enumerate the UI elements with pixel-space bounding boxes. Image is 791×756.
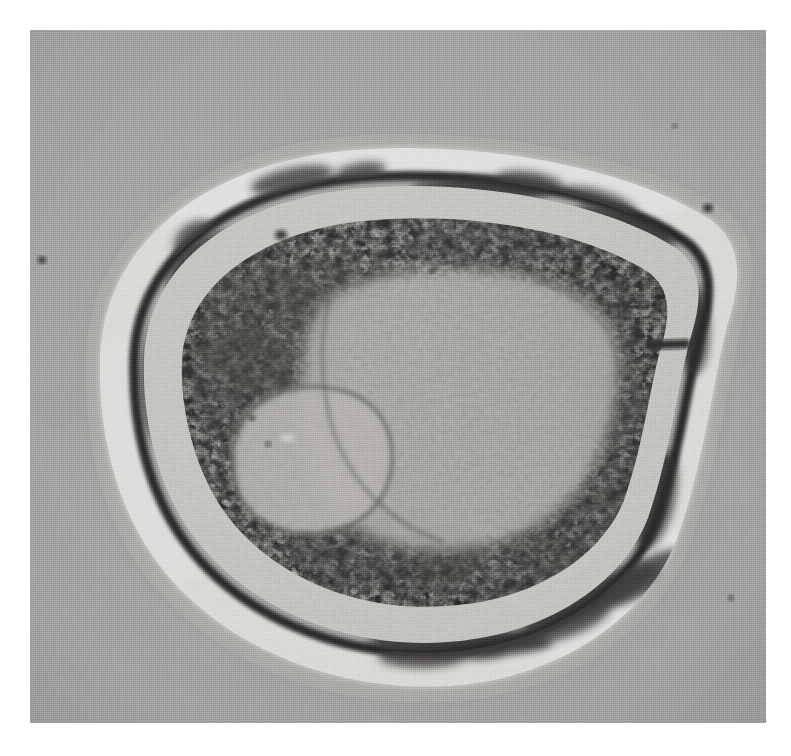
cell-cross-section-drawing bbox=[30, 30, 766, 723]
photographic-plate bbox=[30, 30, 766, 723]
micrograph-figure: Black-and-white transmission electron mi… bbox=[0, 0, 791, 756]
film-grain bbox=[30, 30, 766, 723]
